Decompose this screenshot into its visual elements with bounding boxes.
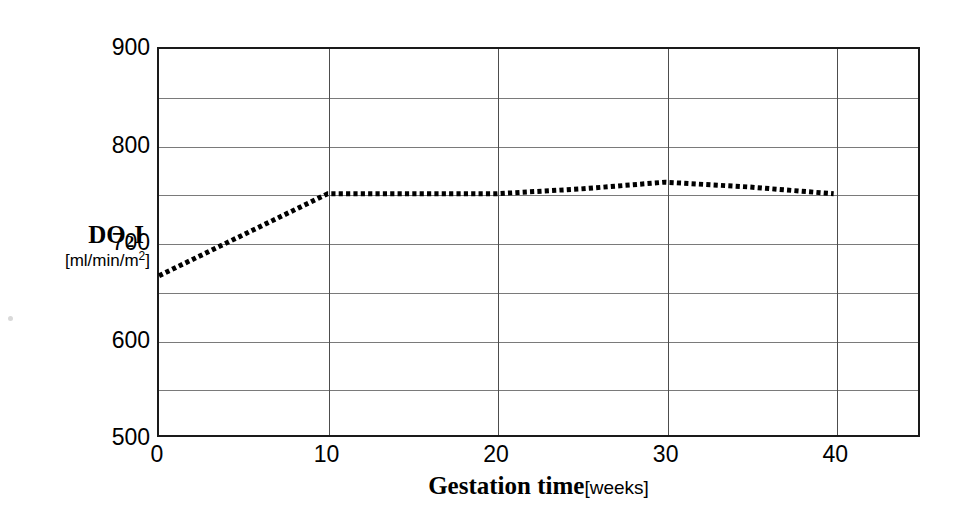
y-axis-units-superscript: 2 bbox=[139, 249, 146, 263]
x-tick-label: 30 bbox=[636, 443, 696, 466]
y-axis-label: DO2I [ml/min/m2] bbox=[0, 222, 152, 272]
x-tick-label: 20 bbox=[466, 443, 526, 466]
x-tick-label: 10 bbox=[297, 443, 357, 466]
plot-area bbox=[157, 47, 920, 437]
x-tick-label: 0 bbox=[127, 443, 187, 466]
x-axis-label: Gestation time[weeks] bbox=[157, 472, 920, 500]
y-tick-label: 800 bbox=[0, 134, 150, 157]
y-axis-label-text: DO bbox=[88, 221, 126, 248]
data-series-do2i bbox=[159, 49, 918, 435]
series-line bbox=[159, 182, 834, 276]
x-tick-label: 40 bbox=[805, 443, 865, 466]
y-axis-units-pre: [ml/min/m bbox=[65, 251, 139, 270]
y-axis-label-subscript: 2 bbox=[126, 232, 135, 251]
x-axis-units: [weeks] bbox=[584, 477, 648, 498]
y-axis-label-main: DO2I bbox=[0, 222, 152, 251]
y-tick-label: 600 bbox=[0, 329, 150, 352]
y-axis-units: [ml/min/m2] bbox=[0, 251, 152, 272]
chart-figure: 900 800 700 600 500 DO2I [ml/min/m2] 0 1… bbox=[0, 0, 963, 516]
y-tick-label: 900 bbox=[0, 36, 150, 59]
scan-speck bbox=[8, 316, 13, 321]
y-axis-label-tail: I bbox=[134, 221, 144, 248]
x-axis-label-main: Gestation time bbox=[428, 472, 584, 499]
y-axis-units-post: ] bbox=[145, 251, 150, 270]
